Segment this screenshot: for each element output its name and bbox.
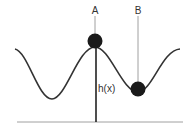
ball-b (131, 82, 146, 97)
diagram-canvas: A B h(x) (0, 0, 190, 129)
label-a: A (92, 5, 99, 16)
ball-a (88, 34, 103, 49)
potential-energy-diagram: A B h(x) (0, 0, 190, 129)
label-height: h(x) (98, 83, 115, 94)
label-b: B (135, 5, 142, 16)
